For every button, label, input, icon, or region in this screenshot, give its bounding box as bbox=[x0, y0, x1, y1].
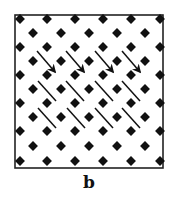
lattice-dot bbox=[98, 42, 108, 52]
diagonal-line bbox=[95, 108, 113, 128]
lattice-dot bbox=[98, 156, 108, 166]
lattice-dot bbox=[42, 42, 52, 52]
lattice-dot bbox=[28, 56, 38, 66]
lattice-dot bbox=[140, 112, 150, 122]
lattice-dot bbox=[140, 141, 150, 151]
figure-label: b bbox=[0, 172, 173, 192]
lattice-dot bbox=[42, 70, 52, 80]
diagonal-line bbox=[38, 81, 56, 101]
lattice-dot bbox=[126, 156, 136, 166]
diagonal-line bbox=[95, 81, 113, 101]
lattice-dot bbox=[84, 112, 94, 122]
diagonal-line bbox=[122, 108, 140, 128]
diagonal-arrow bbox=[66, 51, 84, 72]
lattice-dot bbox=[98, 70, 108, 80]
lattice-dot bbox=[15, 126, 25, 136]
lattice-dot bbox=[98, 98, 108, 108]
lattice-dot bbox=[126, 42, 136, 52]
lattice-dot bbox=[28, 112, 38, 122]
lattice-dot bbox=[42, 156, 52, 166]
lattice-dot bbox=[70, 70, 80, 80]
lattice-dot bbox=[112, 112, 122, 122]
lattice-dot bbox=[112, 141, 122, 151]
lattice-dot bbox=[112, 84, 122, 94]
diagonal-line bbox=[122, 81, 140, 101]
lattice-dot bbox=[126, 126, 136, 136]
lattice-dot bbox=[70, 98, 80, 108]
lattice-dot bbox=[70, 42, 80, 52]
lattice-dot bbox=[112, 28, 122, 38]
lattice-diagram bbox=[0, 0, 173, 197]
lattice-dot bbox=[84, 84, 94, 94]
lattice-dot bbox=[56, 56, 66, 66]
lattice-dot bbox=[56, 141, 66, 151]
lattice-dot bbox=[28, 28, 38, 38]
lattice-dot bbox=[84, 28, 94, 38]
lattice-dot bbox=[140, 28, 150, 38]
diagonal-arrow bbox=[37, 51, 55, 72]
lattice-dot bbox=[70, 126, 80, 136]
lattice-dot bbox=[42, 98, 52, 108]
diagonal-line bbox=[67, 108, 85, 128]
lattice-dot bbox=[84, 56, 94, 66]
lattice-dot bbox=[15, 42, 25, 52]
diagonal-arrow bbox=[95, 51, 113, 72]
lattice-dot bbox=[126, 70, 136, 80]
lattice-dot bbox=[126, 98, 136, 108]
lattice-dot bbox=[28, 141, 38, 151]
lattice-dot bbox=[84, 141, 94, 151]
lattice-dots bbox=[15, 14, 165, 166]
lattice-dot bbox=[42, 126, 52, 136]
lattice-dot bbox=[15, 70, 25, 80]
lattice-dot bbox=[70, 156, 80, 166]
lattice-dot bbox=[112, 56, 122, 66]
lattice-dot bbox=[28, 84, 38, 94]
lattice-dot bbox=[15, 156, 25, 166]
lattice-dot bbox=[56, 84, 66, 94]
lattice-dot bbox=[140, 84, 150, 94]
lattice-dot bbox=[56, 28, 66, 38]
lattice-dot bbox=[98, 126, 108, 136]
diagonal-line bbox=[66, 81, 84, 101]
diagonal-arrow bbox=[122, 51, 140, 72]
lattice-dot bbox=[56, 112, 66, 122]
lattice-dot bbox=[15, 98, 25, 108]
diagonal-line bbox=[38, 108, 56, 128]
lattice-dot bbox=[140, 56, 150, 66]
